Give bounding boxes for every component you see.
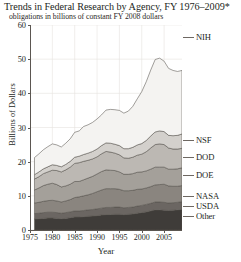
stacked-area-svg (30, 25, 182, 230)
x-tick-mark (30, 230, 31, 233)
series-label-other: Other (196, 211, 215, 221)
series-leader-line (183, 140, 194, 141)
series-leader-line (183, 37, 194, 38)
x-tick-mark (119, 230, 120, 233)
y-tick-label: 20 (0, 157, 30, 166)
plot-area (30, 25, 182, 230)
x-tick-mark (142, 230, 143, 233)
x-axis-label: Year (30, 246, 182, 256)
series-label-dod: DOD (196, 152, 214, 162)
y-tick-label: 30 (0, 123, 30, 132)
series-label-nih: NIH (196, 32, 211, 42)
series-label-nasa: NASA (196, 191, 219, 201)
x-tick-label: 2000 (134, 233, 150, 242)
x-tick-label: 1985 (67, 233, 83, 242)
x-tick-mark (52, 230, 53, 233)
y-tick-mark (28, 196, 31, 197)
y-tick-mark (28, 25, 31, 26)
y-tick-label: 50 (0, 55, 30, 64)
x-tick-mark (75, 230, 76, 233)
x-tick-label: 1995 (111, 233, 127, 242)
chart-subtitle: obligations in billions of constant FY 2… (9, 12, 241, 21)
x-tick-mark (97, 230, 98, 233)
y-tick-label: 60 (0, 21, 30, 30)
series-leader-line (183, 175, 194, 176)
series-leader-line (183, 206, 194, 207)
x-tick-label: 1980 (44, 233, 60, 242)
y-tick-mark (28, 162, 31, 163)
y-tick-label: 10 (0, 191, 30, 200)
y-axis-label: Billions of Dollars (8, 67, 17, 163)
chart-figure: Trends in Federal Research by Agency, FY… (0, 0, 241, 262)
series-leader-line (183, 196, 194, 197)
series-leader-line (183, 157, 194, 158)
series-leader-line (183, 216, 194, 217)
chart-title: Trends in Federal Research by Agency, FY… (4, 1, 241, 12)
y-tick-mark (28, 59, 31, 60)
x-tick-label: 2005 (156, 233, 172, 242)
series-label-usda: USDA (196, 201, 219, 211)
y-tick-mark (28, 128, 31, 129)
x-tick-label: 1990 (89, 233, 105, 242)
y-tick-label: 40 (0, 89, 30, 98)
series-label-nsf: NSF (196, 135, 211, 145)
series-label-doe: DOE (196, 170, 213, 180)
x-tick-mark (164, 230, 165, 233)
x-tick-label: 1975 (22, 233, 38, 242)
y-tick-mark (28, 93, 31, 94)
